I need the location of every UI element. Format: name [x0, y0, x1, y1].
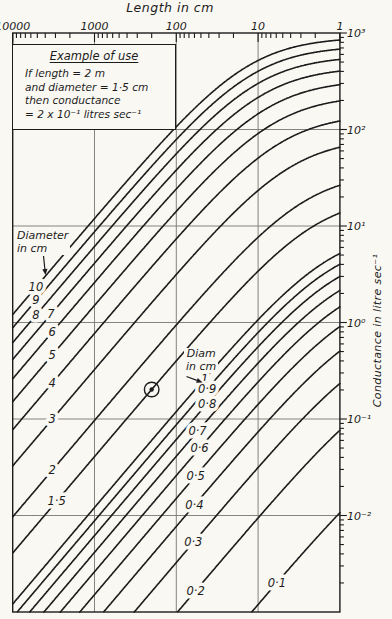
diameter-group-label-line1: Diameter [17, 230, 68, 243]
curve-label-d0.3: 0·3 [184, 535, 202, 549]
y-tick-label: 10¹ [347, 220, 365, 233]
curve-label-d0.4: 0·4 [185, 498, 203, 512]
curve-label-d9: 9 [32, 293, 39, 307]
x-axis-title: Length in cm [108, 0, 232, 15]
curve-d0.4 [104, 351, 340, 612]
curve-label-d6: 6 [48, 325, 55, 339]
curve-label-d10: 10 [29, 280, 44, 294]
curve-label-d0.5: 0·5 [187, 469, 205, 483]
y-tick-label: 10² [347, 124, 366, 137]
example-box-line: If length = 2 m [25, 67, 169, 81]
curve-label-d4: 4 [48, 376, 55, 390]
y-axis-title: Conductance in litre sec⁻¹ [371, 181, 386, 481]
curve-label-d0.1: 0·1 [268, 576, 286, 590]
x-tick-label: 1 [336, 20, 343, 33]
curve-label-d3: 3 [48, 412, 55, 426]
example-box-line: then conductance [25, 94, 169, 108]
diameter-group-label-line2: in cm [17, 243, 68, 256]
y-tick-label: 10⁻¹ [347, 413, 371, 426]
nomograph-page: 10000100010010110³10²10¹10⁰10⁻¹10⁻²10109… [0, 0, 392, 619]
example-box-line: and diameter = 1·5 cm [25, 81, 169, 95]
diameter-pointer-arrow [42, 256, 47, 275]
x-tick-label: 1000 [81, 20, 109, 33]
curve-label-d0.9: 0·9 [198, 382, 216, 396]
y-tick-label: 10⁻² [347, 510, 372, 523]
example-point-marker [144, 382, 159, 397]
y-axis-ticks [340, 33, 347, 583]
curve-label-d0.2: 0·2 [187, 584, 205, 598]
curve-label-d2: 2 [48, 463, 55, 477]
y-axis-tick-labels: 10³10²10¹10⁰10⁻¹10⁻² [347, 27, 372, 523]
x-axis-ticks [13, 33, 340, 42]
diameter-group-label: Diameter in cm [15, 230, 70, 255]
curve-label-d0.7: 0·7 [188, 424, 207, 438]
example-point-dot [149, 387, 153, 391]
y-tick-label: 10³ [347, 27, 366, 40]
curve-label-d8: 8 [32, 308, 39, 322]
curve-label-d5: 5 [48, 348, 55, 362]
example-box-title: Example of use [27, 49, 161, 63]
example-of-use-box: Example of use If length = 2 m and diame… [12, 44, 176, 130]
curve-label-d0.6: 0·6 [190, 441, 208, 455]
diam-group-label-line2: in cm [186, 361, 216, 374]
curve-label-d1.5: 1·5 [48, 494, 66, 508]
example-box-line: = 2 x 10⁻¹ litres sec⁻¹ [25, 108, 169, 122]
arrow-shaft [187, 377, 197, 381]
y-tick-label: 10⁰ [347, 317, 366, 330]
diam-group-label: Diam in cm [184, 348, 218, 373]
x-axis-tick-labels: 100001000100101 [0, 20, 343, 33]
curve-label-d0.8: 0·8 [198, 397, 216, 411]
x-tick-label: 100 [166, 20, 187, 33]
arrow-shaft [44, 256, 45, 269]
curve-d0.3 [134, 384, 340, 613]
x-tick-label: 10000 [0, 20, 30, 33]
curve-label-d7: 7 [47, 307, 55, 321]
x-tick-label: 10 [251, 20, 265, 33]
diam-group-label-line1: Diam [186, 348, 216, 361]
curve-d0.1 [252, 513, 340, 612]
